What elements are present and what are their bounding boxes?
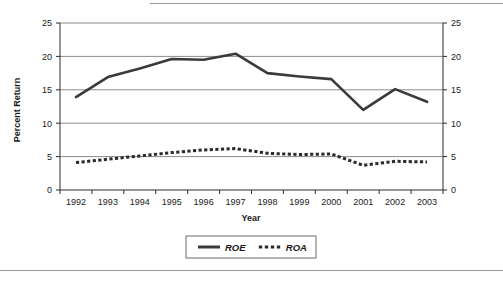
x-tick-label-2002: 2002 [385,197,405,207]
gridlines [60,23,443,157]
x-tick-label-2001: 2001 [353,197,373,207]
x-tick-label-1998: 1998 [257,197,277,207]
x-tick-label-1997: 1997 [226,197,246,207]
y-axis-title: Percent Return [12,78,22,143]
right-axis [443,23,447,190]
chart-figure: 0510152025051015202519921993199419951996… [0,0,503,284]
y2-tick-label-0: 0 [451,185,456,195]
x-tick-label-1993: 1993 [98,197,118,207]
y-tick-label-5: 5 [47,152,52,162]
x-tick-label-1996: 1996 [194,197,214,207]
y2-tick-label-25: 25 [451,18,461,28]
x-tick-label-1992: 1992 [66,197,86,207]
x-tick-label-1995: 1995 [162,197,182,207]
chart-canvas: 0510152025051015202519921993199419951996… [0,0,503,284]
x-tick-label-1999: 1999 [289,197,309,207]
y2-tick-label-20: 20 [451,52,461,62]
x-tick-label-1994: 1994 [130,197,150,207]
legend-label-roe[interactable]: ROE [225,242,246,253]
x-tick-label-2003: 2003 [417,197,437,207]
y-tick-label-10: 10 [42,119,52,129]
x-tick-label-2000: 2000 [321,197,341,207]
series-layer [76,54,427,166]
left-axis [56,23,60,190]
y-tick-label-25: 25 [42,18,52,28]
legend-label-roa[interactable]: ROA [286,242,307,253]
series-line-roe [76,54,427,110]
y-tick-label-15: 15 [42,85,52,95]
y2-tick-label-15: 15 [451,85,461,95]
y-tick-label-0: 0 [47,185,52,195]
x-axis-title: Year [241,213,261,223]
chart-legend[interactable]: ROEROA [186,236,316,258]
y-tick-label-20: 20 [42,52,52,62]
y2-tick-label-5: 5 [451,152,456,162]
tick-labels: 0510152025051015202519921993199419951996… [42,18,461,207]
y2-tick-label-10: 10 [451,119,461,129]
bottom-axis [60,190,443,194]
